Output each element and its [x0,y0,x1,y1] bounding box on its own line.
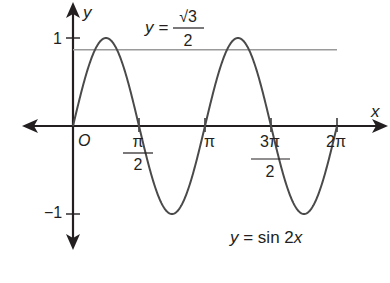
y-axis-label: y [82,3,93,22]
x-tick-label-2pi: 2π [326,133,346,150]
y-tick-label-neg1: −1 [44,204,62,221]
x-tick-label-pi: π [204,133,215,150]
reference-line-label: y = √3 2 [144,8,204,49]
x-tick-label-3pi-over-2-den: 2 [266,163,275,180]
svg-text:√3: √3 [179,8,197,25]
origin-label: O [78,132,90,149]
x-axis-label: x [370,102,380,121]
y-tick-label-1: 1 [53,30,62,47]
x-tick-label-pi-over-2-den: 2 [134,156,143,173]
svg-text:y =: y = [144,18,168,37]
sine-graph: y x O 1 −1 π 2 π 3π 2 2π y = √3 2 y = si… [0,0,390,283]
x-tick-label-3pi-over-2-num: 3π [260,133,280,150]
svg-text:2: 2 [184,32,193,49]
x-tick-label-pi-over-2-num: π [132,133,143,150]
curve-label: y = sin 2x [229,228,303,247]
